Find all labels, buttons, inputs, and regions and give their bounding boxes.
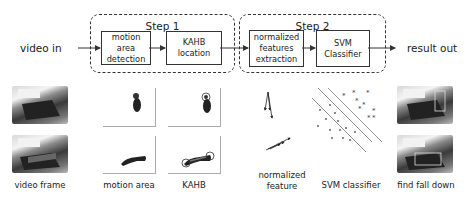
find-fall-down-image-2 — [397, 135, 453, 173]
kahb-caption: KAHB — [174, 180, 214, 190]
normalized-feature-caption-line1: normalized — [252, 170, 312, 181]
motion-area-caption: motion area — [98, 180, 160, 190]
video-frame-image-2 — [12, 135, 68, 173]
kahb-image-1 — [168, 88, 221, 127]
kahb-image-2 — [168, 136, 221, 174]
find-fall-down-caption: find fall down — [393, 180, 459, 190]
flow-arrows — [0, 0, 469, 80]
motion-area-image-1 — [103, 88, 156, 127]
svg-text:*: * — [372, 114, 376, 122]
svg-text:*: * — [362, 101, 366, 109]
svg-text:*: * — [366, 89, 370, 97]
normalized-feature-vectors — [260, 88, 300, 163]
find-fall-down-image-1 — [397, 86, 453, 124]
svm-classifier-caption: SVM classifier — [316, 180, 386, 190]
svg-text:*: * — [358, 105, 362, 113]
normalized-feature-caption: normalized feature — [252, 170, 312, 192]
video-frame-image-1 — [12, 86, 68, 124]
svg-text:*: * — [367, 114, 371, 122]
svm-classifier-plot: *** *** *** — [310, 88, 390, 158]
svg-text:*: * — [342, 92, 346, 100]
svg-text:*: * — [355, 97, 359, 105]
motion-area-image-2 — [103, 136, 156, 174]
video-frame-caption: video frame — [10, 180, 70, 190]
svg-text:*: * — [352, 89, 356, 97]
normalized-feature-caption-line2: feature — [252, 181, 312, 192]
